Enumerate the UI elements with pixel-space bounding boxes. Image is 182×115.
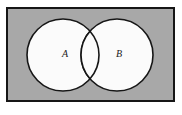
set-label-a: A (61, 48, 69, 59)
venn-diagram-figure: A B (0, 0, 182, 115)
venn-diagram-canvas: A B (0, 0, 182, 115)
set-label-b: B (116, 48, 122, 59)
